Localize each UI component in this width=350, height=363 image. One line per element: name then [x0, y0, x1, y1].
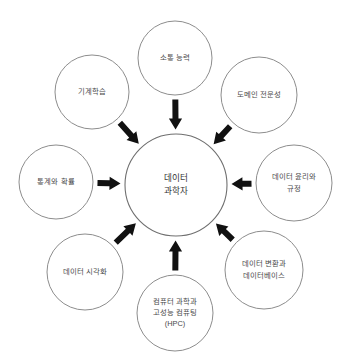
node-label-data-scientist: 데이터: [164, 173, 188, 183]
arrow-from-statistics-and-probability: [97, 177, 120, 190]
node-label-data-transformation-and-databases: 데이터 변환과: [242, 259, 286, 268]
arrow-from-communication-skills: [169, 99, 182, 129]
node-label-data-scientist: 과학자: [164, 186, 188, 196]
node-computer-science-and-hpc[interactable]: 컴퓨터 과학과고성능 컴퓨팅(HPC): [137, 275, 213, 351]
nodes-layer: 소통 능력기계학습도메인 전문성통계와 확률데이터 윤리와규정데이터 시각화컴퓨…: [19, 21, 332, 351]
node-label-data-ethics-and-regulation: 규정: [287, 184, 301, 193]
node-label-data-visualization: 데이터 시각화: [63, 267, 107, 276]
node-label-machine-learning: 기계학습: [78, 87, 106, 96]
node-label-computer-science-and-hpc: 컴퓨터 과학과: [153, 297, 197, 306]
node-label-computer-science-and-hpc: (HPC): [165, 319, 186, 328]
node-data-transformation-and-databases[interactable]: 데이터 변환과데이터베이스: [225, 231, 303, 309]
node-machine-learning[interactable]: 기계학습: [55, 55, 129, 129]
node-label-computer-science-and-hpc: 고성능 컴퓨팅: [153, 308, 197, 317]
node-domain-expertise[interactable]: 도메인 전문성: [221, 57, 297, 133]
node-label-statistics-and-probability: 통계와 확률: [37, 177, 74, 186]
node-data-ethics-and-regulation[interactable]: 데이터 윤리와규정: [256, 145, 332, 221]
arrow-from-data-visualization: [114, 223, 136, 244]
arrow-from-machine-learning: [118, 121, 139, 144]
arrow-from-domain-expertise: [214, 124, 233, 144]
node-statistics-and-probability[interactable]: 통계와 확률: [19, 145, 93, 219]
skills-diagram: 소통 능력기계학습도메인 전문성통계와 확률데이터 윤리와규정데이터 시각화컴퓨…: [0, 0, 350, 363]
arrow-from-data-transformation-and-databases: [216, 224, 235, 242]
node-data-visualization[interactable]: 데이터 시각화: [47, 234, 123, 310]
node-label-communication-skills: 소통 능력: [160, 53, 190, 62]
diagram-canvas: 소통 능력기계학습도메인 전문성통계와 확률데이터 윤리와규정데이터 시각화컴퓨…: [0, 0, 350, 363]
node-label-domain-expertise: 도메인 전문성: [237, 90, 281, 99]
arrow-from-computer-science-and-hpc: [169, 241, 182, 271]
node-communication-skills[interactable]: 소통 능력: [138, 21, 212, 95]
node-label-data-transformation-and-databases: 데이터베이스: [243, 271, 285, 280]
node-label-data-ethics-and-regulation: 데이터 윤리와: [272, 172, 316, 181]
node-data-scientist[interactable]: 데이터과학자: [125, 134, 227, 236]
arrow-from-data-ethics-and-regulation: [231, 177, 251, 190]
